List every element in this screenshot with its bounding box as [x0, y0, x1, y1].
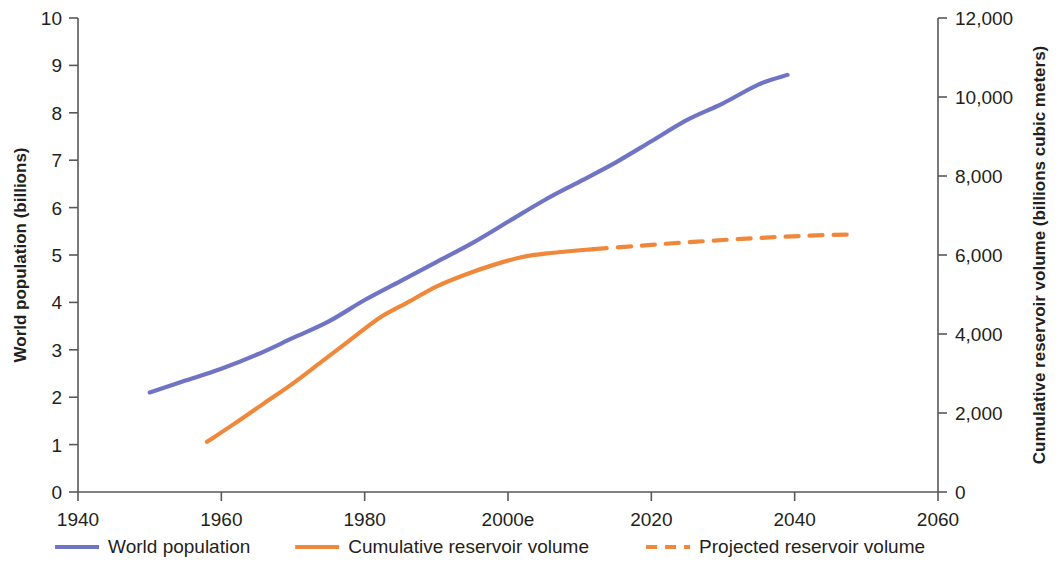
line-chart: 01234567891002,0004,0006,0008,00010,0001…: [0, 0, 1061, 575]
y-tick-label-left-0: 0: [51, 482, 62, 503]
x-tick-label-2020: 2020: [630, 509, 672, 530]
x-tick-label-2000: 2000e: [482, 509, 535, 530]
y-tick-label-left-8: 8: [51, 103, 62, 124]
y-tick-label-left-4: 4: [51, 292, 62, 313]
y-tick-label-right-12000: 12,000: [955, 8, 1013, 29]
y-tick-label-left-1: 1: [51, 435, 62, 456]
series-line-0: [150, 75, 788, 393]
y-tick-label-left-9: 9: [51, 55, 62, 76]
x-tick-label-2060: 2060: [917, 509, 959, 530]
y-tick-label-left-6: 6: [51, 198, 62, 219]
chart-legend: World populationCumulative reservoir vol…: [55, 536, 925, 557]
legend-label-2: Projected reservoir volume: [699, 536, 925, 557]
y-tick-label-right-10000: 10,000: [955, 87, 1013, 108]
series-line-1: [207, 249, 594, 442]
y-axis-title-right: Cumulative reservoir volume (billions cu…: [1030, 46, 1049, 465]
y-tick-label-right-6000: 6,000: [955, 245, 1003, 266]
x-tick-label-1960: 1960: [200, 509, 242, 530]
x-tick-label-1940: 1940: [57, 509, 99, 530]
y-axis-title-left: World population (billions): [11, 148, 30, 363]
y-tick-label-right-2000: 2,000: [955, 403, 1003, 424]
y-tick-label-left-10: 10: [41, 8, 62, 29]
chart-figure: 01234567891002,0004,0006,0008,00010,0001…: [0, 0, 1061, 575]
legend-label-0: World population: [108, 536, 250, 557]
y-tick-label-left-3: 3: [51, 340, 62, 361]
y-tick-label-right-0: 0: [955, 482, 966, 503]
legend-label-1: Cumulative reservoir volume: [348, 536, 589, 557]
y-tick-label-left-5: 5: [51, 245, 62, 266]
axis-labels: 01234567891002,0004,0006,0008,00010,0001…: [11, 8, 1049, 530]
y-tick-label-left-7: 7: [51, 150, 62, 171]
y-tick-label-right-4000: 4,000: [955, 324, 1003, 345]
series-line-2: [594, 234, 852, 249]
x-tick-label-2040: 2040: [774, 509, 816, 530]
x-tick-label-1980: 1980: [344, 509, 386, 530]
y-tick-label-left-2: 2: [51, 387, 62, 408]
y-tick-label-right-8000: 8,000: [955, 166, 1003, 187]
data-series: [150, 75, 852, 442]
